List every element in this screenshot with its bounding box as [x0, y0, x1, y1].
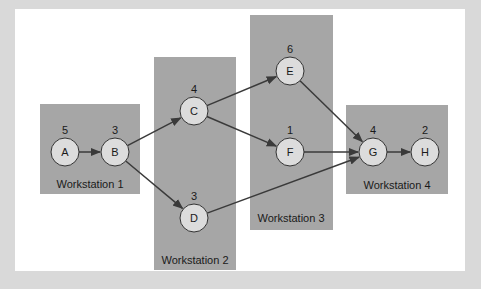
task-time-label: 4 — [191, 83, 197, 95]
node-label: G — [369, 146, 378, 158]
task-time-label: 6 — [287, 43, 293, 55]
task-time-label: 1 — [287, 124, 293, 136]
node-label: D — [190, 212, 198, 224]
node-label: C — [190, 105, 198, 117]
precedence-diagram: Workstation 1Workstation 2Workstation 3W… — [0, 0, 481, 289]
node-label: A — [61, 146, 69, 158]
node-label: E — [286, 65, 293, 77]
workstation-label: Workstation 1 — [56, 178, 123, 190]
task-time-label: 3 — [191, 190, 197, 202]
node-label: B — [111, 146, 118, 158]
task-time-label: 4 — [370, 124, 376, 136]
task-time-label: 2 — [422, 124, 428, 136]
workstation-label: Workstation 3 — [257, 212, 324, 224]
node-label: H — [421, 146, 429, 158]
task-time-label: 5 — [62, 124, 68, 136]
workstation-label: Workstation 2 — [161, 254, 228, 266]
workstations-layer: Workstation 1Workstation 2Workstation 3W… — [40, 15, 448, 270]
task-time-label: 3 — [112, 124, 118, 136]
node-label: F — [287, 146, 294, 158]
workstation-label: Workstation 4 — [363, 179, 430, 191]
